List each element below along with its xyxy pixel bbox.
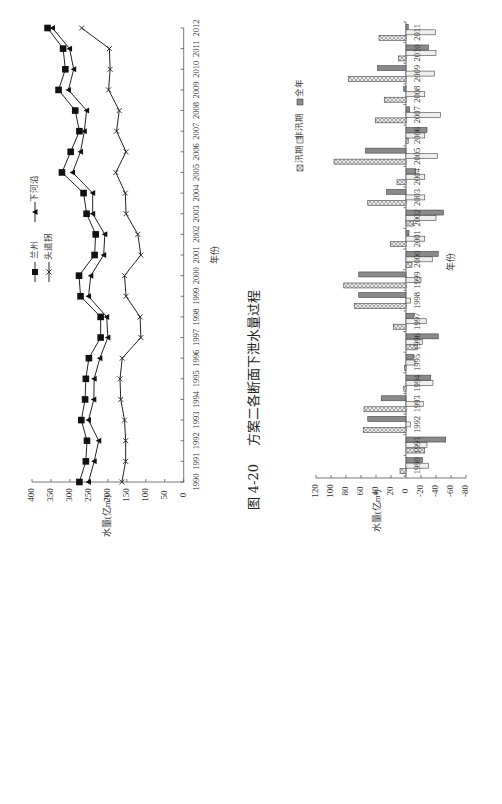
bar-year-label: 1996 xyxy=(412,333,422,350)
value-axis-tick-label: 300 xyxy=(64,488,74,502)
figure-page: 050100150200250300350400水量(亿m³)199019911… xyxy=(0,0,502,804)
square-marker xyxy=(62,66,69,73)
bar-year-label: 1992 xyxy=(412,416,422,433)
year-axis-tick-label: 2001 xyxy=(191,247,201,264)
bar-value-axis-tick-label: 80 xyxy=(340,486,350,496)
bar-全年 xyxy=(406,107,410,112)
value-axis-tick-label: 400 xyxy=(26,488,36,502)
line-legend: 兰州头道拐下河沿 xyxy=(29,175,53,283)
bar-全年 xyxy=(404,86,406,91)
bar-year-label: 2006 xyxy=(412,127,422,144)
legend-label-lanzhou: 兰州 xyxy=(29,241,39,259)
bar-value-axis-tick-label: 60 xyxy=(355,486,365,496)
year-axis-tick-label: 2000 xyxy=(191,267,201,284)
legend-square-icon xyxy=(32,269,38,275)
bar-year-label: 2005 xyxy=(412,148,422,165)
value-axis-title: 水量(亿m³) xyxy=(101,495,112,538)
bar-year-label: 1995 xyxy=(412,354,422,371)
legend-label-汛期: 汛期 xyxy=(294,145,304,163)
legend-label-全年: 全年 xyxy=(294,79,304,97)
figure-title: 方案二各断面下泄水量过程 xyxy=(246,290,261,446)
bar-汛期 xyxy=(393,324,406,329)
legend-label-非汛期: 非汛期 xyxy=(294,113,304,140)
bar-汛期 xyxy=(354,304,406,309)
bar-汛期 xyxy=(344,283,406,288)
bar-value-axis-tick-label: -80 xyxy=(460,485,470,497)
legend-label-toudaoguai: 头道拐 xyxy=(43,233,53,260)
bar-year-label: 2004 xyxy=(412,168,422,186)
square-marker xyxy=(72,107,79,114)
bar-非汛期 xyxy=(406,422,411,427)
bar-value-axis-title: 水量(亿m³) xyxy=(371,490,382,533)
square-marker xyxy=(91,252,98,259)
bar-year-label: 2001 xyxy=(412,230,422,247)
year-axis-tick-label: 1996 xyxy=(191,350,201,367)
square-marker xyxy=(86,355,93,362)
year-axis-tick-label: 2006 xyxy=(191,143,201,160)
series-line-下河沿 xyxy=(52,28,107,482)
triangle-marker xyxy=(70,169,76,175)
bar-全年 xyxy=(359,272,406,277)
year-axis-tick-label: 2010 xyxy=(191,61,201,78)
bar-chart: 120100806040200-20-40-60-80水量(亿m³)199019… xyxy=(294,22,470,532)
bar-value-axis-tick-label: -20 xyxy=(415,485,425,497)
bar-year-label: 2009 xyxy=(412,65,422,82)
bar-全年 xyxy=(406,24,408,29)
bar-非汛期 xyxy=(406,298,411,303)
bar-汛期 xyxy=(379,35,406,40)
bar-value-axis-tick-label: 20 xyxy=(385,486,395,496)
legend-label-xiaheyan: 下河沿 xyxy=(29,175,39,202)
bar-year-label: 1993 xyxy=(412,395,422,412)
bar-汛期 xyxy=(368,200,406,205)
bar-汛期 xyxy=(334,159,406,164)
year-axis-tick-label: 1991 xyxy=(191,453,201,470)
bar-汛期 xyxy=(399,56,407,61)
bar-汛期 xyxy=(364,407,406,412)
value-axis-tick-label: 350 xyxy=(45,488,55,502)
year-axis-tick-label: 2011 xyxy=(191,40,201,57)
year-axis-tick-label: 1993 xyxy=(191,412,201,429)
year-axis-tick-label: 1992 xyxy=(191,432,201,449)
bar-value-axis-tick-label: 100 xyxy=(325,484,335,498)
bar-year-label: 2010 xyxy=(412,44,422,61)
bar-year-axis-title: 年份 xyxy=(445,253,456,271)
value-axis-tick-label: 250 xyxy=(83,488,93,502)
bar-全年 xyxy=(387,189,407,194)
x-marker xyxy=(124,149,129,154)
square-marker xyxy=(59,169,66,176)
bar-汛期 xyxy=(405,366,407,371)
bar-year-label: 1990 xyxy=(412,457,422,474)
bar-汛期 xyxy=(390,242,406,247)
square-marker xyxy=(76,479,83,486)
value-axis-tick-label: 50 xyxy=(159,490,169,500)
square-marker xyxy=(83,376,90,383)
bar-value-axis-tick-label: 120 xyxy=(310,484,320,498)
bar-year-label: 1998 xyxy=(412,292,422,309)
year-axis-tick-label: 2012 xyxy=(191,20,201,37)
square-marker xyxy=(97,314,104,321)
bar-year-label: 2007 xyxy=(412,106,422,123)
year-axis-tick-label: 2002 xyxy=(191,226,201,243)
bar-汛期 xyxy=(363,427,406,432)
bar-year-label: 1997 xyxy=(412,313,422,330)
square-marker xyxy=(60,45,67,52)
bar-汛期 xyxy=(404,386,406,391)
figure-number: 图 4-20 xyxy=(246,464,261,510)
year-axis-tick-label: 2008 xyxy=(191,102,201,119)
bar-year-label: 2002 xyxy=(412,210,422,227)
square-marker xyxy=(82,396,89,403)
bar-year-label: 1999 xyxy=(412,271,422,288)
square-marker xyxy=(80,190,87,197)
bar-全年 xyxy=(378,66,407,71)
square-marker xyxy=(78,417,85,424)
legend-swatch-全年 xyxy=(297,99,303,105)
square-marker xyxy=(55,87,62,94)
value-axis-tick-label: 100 xyxy=(140,488,150,502)
bar-year-label: 1991 xyxy=(412,437,422,454)
x-marker xyxy=(113,170,118,175)
year-axis-tick-label: 1998 xyxy=(191,308,201,325)
year-axis-tick-label: 1999 xyxy=(191,288,201,305)
bar-汛期 xyxy=(348,77,406,82)
bar-year-label: 2000 xyxy=(412,251,422,268)
square-marker xyxy=(92,231,99,238)
